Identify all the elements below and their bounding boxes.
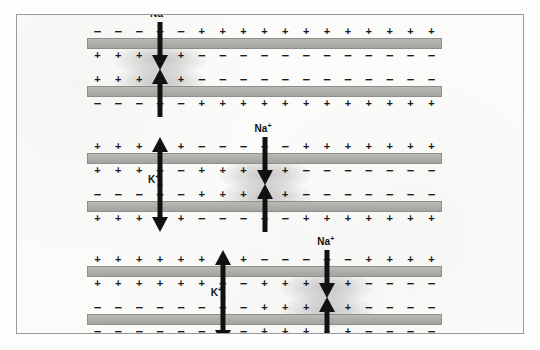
- charge-plus: +: [317, 301, 338, 314]
- charge-minus: −: [275, 49, 296, 62]
- charge-plus: +: [108, 49, 129, 62]
- charge-minus: −: [191, 73, 212, 86]
- charge-minus: −: [254, 73, 275, 86]
- charge-plus: +: [108, 277, 129, 290]
- charge-plus: +: [171, 140, 192, 153]
- charge-plus: +: [421, 212, 442, 225]
- charge-plus: +: [171, 49, 192, 62]
- charge-minus: −: [108, 325, 129, 334]
- charge-plus: +: [358, 140, 379, 153]
- charge-plus: +: [129, 277, 150, 290]
- panel-1-membrane-1-upper-charge-row: −−−−−++++++++++++: [87, 25, 442, 38]
- charge-minus: −: [150, 301, 171, 314]
- charge-plus: +: [317, 277, 338, 290]
- charge-minus: −: [421, 73, 442, 86]
- panel-1-membrane-2-lower-charge-row: −−−−−++++++++++++: [87, 97, 442, 110]
- charge-plus: +: [233, 97, 254, 110]
- charge-minus: −: [129, 325, 150, 334]
- charge-minus: −: [129, 188, 150, 201]
- charge-plus: +: [379, 25, 400, 38]
- panel-2-membrane-1-lower-charge-row: +++−−+++++−−−−−−−: [87, 164, 442, 177]
- charge-plus: +: [150, 277, 171, 290]
- ion-symbol: Na: [317, 236, 330, 247]
- charge-minus: −: [254, 49, 275, 62]
- charge-plus: +: [379, 253, 400, 266]
- charge-plus: +: [296, 325, 317, 334]
- charge-plus: +: [233, 188, 254, 201]
- charge-minus: −: [338, 164, 359, 177]
- charge-minus: −: [191, 212, 212, 225]
- charge-minus: −: [275, 212, 296, 225]
- charge-minus: −: [338, 73, 359, 86]
- charge-minus: −: [233, 49, 254, 62]
- charge-plus: +: [296, 25, 317, 38]
- charge-plus: +: [275, 97, 296, 110]
- charge-plus: +: [358, 97, 379, 110]
- charge-plus: +: [87, 277, 108, 290]
- charge-plus: +: [400, 212, 421, 225]
- charge-plus: +: [129, 253, 150, 266]
- charge-minus: −: [296, 73, 317, 86]
- charge-plus: +: [171, 253, 192, 266]
- charge-minus: −: [296, 253, 317, 266]
- ion-charge-superscript: +: [155, 173, 159, 180]
- panel-3-membrane-1-upper-charge-row: ++++++++−−−−−++++: [87, 253, 442, 266]
- charge-plus: +: [191, 253, 212, 266]
- charge-plus: +: [400, 253, 421, 266]
- charge-plus: +: [87, 140, 108, 153]
- charge-minus: −: [191, 49, 212, 62]
- charge-plus: +: [108, 140, 129, 153]
- charge-plus: +: [212, 25, 233, 38]
- charge-plus: +: [379, 140, 400, 153]
- charge-minus: −: [171, 188, 192, 201]
- charge-minus: −: [379, 73, 400, 86]
- charge-minus: −: [129, 25, 150, 38]
- charge-minus: −: [212, 140, 233, 153]
- charge-plus: +: [379, 212, 400, 225]
- charge-minus: −: [421, 188, 442, 201]
- charge-minus: −: [317, 253, 338, 266]
- charge-minus: −: [212, 212, 233, 225]
- charge-plus: +: [108, 73, 129, 86]
- charge-minus: −: [233, 301, 254, 314]
- charge-plus: +: [191, 164, 212, 177]
- charge-minus: −: [317, 164, 338, 177]
- charge-minus: −: [400, 325, 421, 334]
- charge-plus: +: [338, 301, 359, 314]
- charge-minus: −: [358, 49, 379, 62]
- panel-3-membrane-1-lower-charge-row: ++++++−−+++++−−−−: [87, 277, 442, 290]
- charge-minus: −: [150, 325, 171, 334]
- charge-plus: +: [358, 212, 379, 225]
- charge-plus: +: [87, 212, 108, 225]
- charge-plus: +: [296, 212, 317, 225]
- charge-minus: −: [317, 49, 338, 62]
- charge-plus: +: [254, 325, 275, 334]
- charge-plus: +: [191, 188, 212, 201]
- charge-plus: +: [254, 277, 275, 290]
- charge-plus: +: [254, 188, 275, 201]
- charge-plus: +: [338, 212, 359, 225]
- charge-minus: −: [358, 164, 379, 177]
- charge-minus: −: [400, 49, 421, 62]
- ion-label-na: Na+: [317, 235, 334, 247]
- charge-minus: −: [379, 49, 400, 62]
- charge-minus: −: [171, 301, 192, 314]
- charge-minus: −: [87, 301, 108, 314]
- charge-minus: −: [358, 301, 379, 314]
- charge-minus: −: [171, 164, 192, 177]
- charge-plus: +: [296, 140, 317, 153]
- charge-minus: −: [191, 140, 212, 153]
- membrane-action-potential-figure: −−−−−+++++++++++++++++−−−−−−−−−−−−+++++−…: [16, 14, 524, 334]
- charge-minus: −: [87, 25, 108, 38]
- ion-symbol: K: [211, 287, 218, 298]
- charge-plus: +: [421, 25, 442, 38]
- charge-minus: −: [275, 253, 296, 266]
- stage-1-initial-depolarization: −−−−−+++++++++++++++++−−−−−−−−−−−−+++++−…: [17, 15, 524, 115]
- ion-charge-superscript: +: [218, 286, 222, 293]
- charge-minus: −: [191, 325, 212, 334]
- charge-minus: −: [150, 25, 171, 38]
- charge-minus: −: [317, 188, 338, 201]
- charge-plus: +: [275, 164, 296, 177]
- charge-minus: −: [108, 188, 129, 201]
- charge-minus: −: [254, 140, 275, 153]
